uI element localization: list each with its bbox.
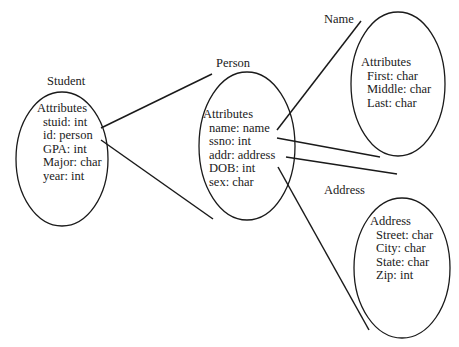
student-to-person-top-line: [101, 74, 212, 128]
attribute: addr: address: [203, 149, 275, 163]
name-attributes: Attributes First: char Middle: char Last…: [361, 56, 431, 110]
section-heading: Attributes: [361, 56, 431, 70]
attribute: id: person: [37, 129, 102, 143]
attribute: GPA: int: [37, 143, 102, 157]
attribute: City: char: [370, 242, 433, 256]
person-to-address-top-line: [286, 157, 397, 174]
person-title: Person: [216, 56, 250, 70]
attribute: sex: char: [203, 176, 275, 190]
attribute: First: char: [361, 70, 431, 84]
attribute: name: name: [203, 122, 275, 136]
section-heading: Attributes: [203, 108, 275, 122]
attribute: Street: char: [370, 229, 433, 243]
person-to-name-bottom-line: [277, 138, 380, 157]
student-title: Student: [47, 74, 85, 88]
attribute: Zip: int: [370, 269, 433, 283]
attribute: Middle: char: [361, 83, 431, 97]
student-attributes: Attributes stuid: int id: person GPA: in…: [37, 102, 102, 184]
attribute: State: char: [370, 256, 433, 270]
name-title: Name: [324, 12, 354, 26]
person-to-name-top-line: [277, 21, 361, 130]
address-title: Address: [324, 183, 365, 197]
attribute: ssno: int: [203, 135, 275, 149]
address-attributes: Address Street: char City: char State: c…: [370, 215, 433, 283]
attribute: year: int: [37, 170, 102, 184]
attribute: DOB: int: [203, 162, 275, 176]
section-heading: Address: [370, 215, 433, 229]
attribute: Major: char: [37, 156, 102, 170]
student-to-person-bottom-line: [101, 140, 213, 219]
attribute: Last: char: [361, 97, 431, 111]
attribute: stuid: int: [37, 116, 102, 130]
section-heading: Attributes: [37, 102, 102, 116]
person-attributes: Attributes name: name ssno: int addr: ad…: [203, 108, 275, 190]
